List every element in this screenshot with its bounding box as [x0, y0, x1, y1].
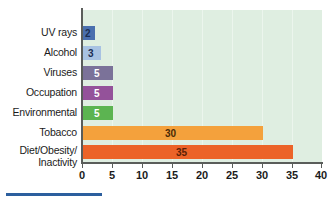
x-tick-label-20: 20	[190, 169, 214, 181]
bar-viruses: 5	[83, 66, 113, 80]
bar-value-occupation: 5	[94, 89, 99, 99]
x-tick-label-30: 30	[250, 169, 274, 181]
bar-diet-obesity-inactivity: 35	[83, 145, 293, 159]
x-tick-15	[172, 163, 173, 168]
x-tick-label-35: 35	[280, 169, 304, 181]
bar-value-tobacco: 30	[165, 129, 176, 139]
x-tick-30	[262, 163, 263, 168]
bar-environmental: 5	[83, 106, 113, 120]
category-label-alcohol: Alcohol	[0, 47, 77, 59]
x-tick-label-0: 0	[70, 169, 94, 181]
category-label-viruses: Viruses	[0, 67, 77, 79]
category-label-uv-rays: UV rays	[0, 27, 77, 39]
x-tick-5	[112, 163, 113, 168]
bar-tobacco: 30	[83, 126, 263, 140]
category-label-occupation: Occupation	[0, 87, 77, 99]
bar-value-alcohol: 3	[88, 49, 93, 59]
x-tick-10	[142, 163, 143, 168]
category-label-line-2: Inactivity	[38, 156, 77, 168]
bar-value-uv-rays: 2	[85, 29, 90, 39]
bar-value-diet-obesity-inactivity: 35	[176, 148, 187, 158]
bar-occupation: 5	[83, 86, 113, 100]
category-label-tobacco: Tobacco	[0, 127, 77, 139]
bar-value-environmental: 5	[94, 109, 99, 119]
caption-rule	[6, 193, 102, 196]
category-label-environmental: Environmental	[0, 107, 77, 119]
x-tick-25	[232, 163, 233, 168]
x-tick-label-15: 15	[160, 169, 184, 181]
bar-value-viruses: 5	[94, 69, 99, 79]
bar-alcohol: 3	[83, 46, 101, 60]
x-tick-0	[82, 163, 83, 168]
bar-uv-rays: 2	[83, 26, 95, 40]
gridline-35	[292, 10, 293, 162]
x-tick-label-10: 10	[130, 169, 154, 181]
x-tick-label-5: 5	[100, 169, 124, 181]
x-tick-35	[292, 163, 293, 168]
category-label-line-1: Diet/Obesity/	[19, 144, 77, 156]
x-tick-label-25: 25	[220, 169, 244, 181]
x-tick-40	[321, 163, 322, 168]
x-tick-label-40: 40	[309, 169, 332, 181]
x-tick-20	[202, 163, 203, 168]
category-label-diet-obesity-inactivity: Diet/Obesity/ Inactivity	[0, 145, 77, 168]
